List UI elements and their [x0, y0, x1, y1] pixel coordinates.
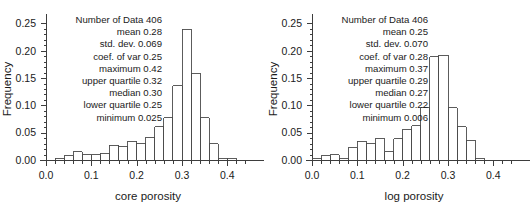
statistics-line: median 0.30 [109, 87, 162, 98]
histogram-bar [155, 127, 164, 160]
histogram-bar [164, 118, 173, 160]
y-tick-label: 0.25 [282, 17, 303, 29]
statistics-line: minimum 0.025 [96, 112, 162, 123]
y-tick-label: 0.00 [16, 154, 37, 166]
statistics-line: coef. of var 0.28 [359, 51, 428, 62]
x-tick-labels: 0.00.10.20.30.4 [305, 169, 501, 181]
statistics-line: lower quartile 0.25 [84, 99, 162, 110]
histogram-bar [200, 118, 209, 160]
histogram-bar [312, 158, 321, 160]
histogram-bar [475, 158, 484, 160]
x-axis-title: log porosity [385, 190, 444, 202]
y-tick-labels: 0.000.050.100.150.200.25 [16, 17, 37, 166]
statistics-line: mean 0.25 [383, 26, 428, 37]
histogram-bar [218, 159, 227, 160]
x-tick-label: 0.1 [84, 169, 99, 181]
histogram-bar [375, 139, 384, 160]
x-tick-label: 0.3 [441, 169, 456, 181]
histogram-bar [55, 158, 64, 160]
y-tick-label: 0.05 [16, 126, 37, 138]
statistics-line: coef. of var 0.25 [93, 51, 162, 62]
x-tick-label: 0.3 [175, 169, 190, 181]
statistics-line: Number of Data 406 [76, 14, 162, 25]
y-tick-label: 0.05 [282, 126, 303, 138]
histogram-bar [457, 127, 466, 160]
histogram-bar [173, 86, 182, 160]
x-tick-labels: 0.00.10.20.30.4 [39, 169, 235, 181]
statistics-line: maximum 0.42 [99, 63, 162, 74]
statistics-line: maximum 0.37 [365, 63, 428, 74]
y-tick-label: 0.20 [282, 45, 303, 57]
statistics-line: lower quartile 0.22 [350, 99, 428, 110]
y-axis-title: Frequency [1, 62, 13, 117]
chart-panel-log-porosity: 0.00.10.20.30.40.000.050.100.150.200.25l… [266, 0, 532, 220]
histogram-bar [137, 143, 146, 160]
histogram-bar [146, 137, 155, 160]
histogram-figure: 0.00.10.20.30.40.000.050.100.150.200.25c… [0, 0, 532, 220]
histogram-bar [366, 143, 375, 160]
histogram-bar [73, 152, 82, 160]
histogram-bar [100, 153, 109, 160]
y-tick-label: 0.25 [16, 17, 37, 29]
statistics-line: std. dev. 0.069 [100, 38, 162, 49]
statistics-block: Number of Data 406mean 0.25std. dev. 0.0… [342, 14, 428, 123]
x-tick-label: 0.4 [220, 169, 235, 181]
histogram-bar [109, 145, 118, 160]
histogram-bar [91, 155, 100, 160]
y-tick-labels: 0.000.050.100.150.200.25 [282, 17, 303, 166]
histogram-bar [412, 126, 421, 160]
histogram-bar [348, 148, 357, 160]
histogram-bar [385, 152, 394, 160]
chart-svg: 0.00.10.20.30.40.000.050.100.150.200.25c… [0, 0, 266, 220]
statistics-line: minimum 0.006 [362, 112, 428, 123]
y-tick-label: 0.15 [282, 72, 303, 84]
statistics-line: Number of Data 406 [342, 14, 428, 25]
x-tick-label: 0.0 [305, 169, 320, 181]
histogram-bar [357, 141, 366, 160]
histogram-bar [430, 57, 439, 160]
statistics-line: median 0.27 [375, 87, 428, 98]
y-tick-label: 0.10 [282, 99, 303, 111]
y-tick-label: 0.15 [16, 72, 37, 84]
statistics-block: Number of Data 406mean 0.28std. dev. 0.0… [76, 14, 162, 123]
histogram-bar [191, 73, 200, 160]
x-tick-label: 0.1 [350, 169, 365, 181]
y-tick-label: 0.20 [16, 45, 37, 57]
y-tick-label: 0.10 [16, 99, 37, 111]
x-tick-label: 0.0 [39, 169, 54, 181]
histogram-bar [339, 158, 348, 160]
histogram-bar [330, 155, 339, 160]
x-tick-label: 0.4 [486, 169, 501, 181]
histogram-bar [64, 156, 73, 160]
x-axis-title: core porosity [115, 190, 181, 202]
histogram-bar [321, 156, 330, 160]
statistics-line: upper quartile 0.32 [82, 75, 162, 86]
histogram-bar [227, 158, 236, 160]
statistics-line: upper quartile 0.29 [348, 75, 428, 86]
histogram-bar [119, 146, 128, 160]
chart-svg: 0.00.10.20.30.40.000.050.100.150.200.25l… [266, 0, 532, 220]
histogram-bar [182, 29, 191, 160]
histogram-bar [128, 141, 137, 160]
y-tick-label: 0.00 [282, 154, 303, 166]
histogram-bar [466, 140, 475, 160]
histogram-bar [82, 155, 91, 160]
chart-panel-core-porosity: 0.00.10.20.30.40.000.050.100.150.200.25c… [0, 0, 266, 220]
statistics-line: std. dev. 0.070 [366, 38, 428, 49]
histogram-bar [394, 139, 403, 160]
histogram-bar [209, 144, 218, 160]
statistics-line: mean 0.28 [117, 26, 162, 37]
histogram-bar [439, 55, 448, 160]
y-axis-title: Frequency [267, 62, 279, 117]
histogram-bar [403, 129, 412, 160]
x-tick-label: 0.2 [395, 169, 410, 181]
histogram-bar [448, 108, 457, 160]
x-tick-label: 0.2 [129, 169, 144, 181]
